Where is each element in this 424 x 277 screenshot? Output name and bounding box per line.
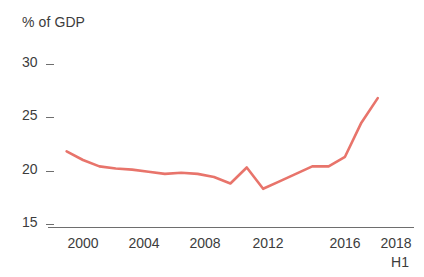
x-tick-label-2012: 2012 (252, 235, 283, 251)
x-tick-label-2000: 2000 (67, 235, 98, 251)
x-tick-label-2008: 2008 (189, 235, 220, 251)
chart-container: % of GDP 30 25 20 15 2000 2004 2008 2012… (0, 0, 424, 277)
x-tick-label-2004: 2004 (128, 235, 159, 251)
data-series-line (67, 98, 378, 189)
x-axis-note-h1: H1 (391, 254, 409, 270)
x-tick-label-2018: 2018 (380, 235, 411, 251)
x-tick-label-2016: 2016 (329, 235, 360, 251)
